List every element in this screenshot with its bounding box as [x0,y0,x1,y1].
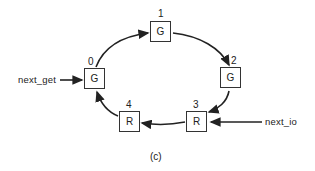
node-0-state: G [91,73,99,84]
edge-1-2 [173,33,229,65]
next-io-label: next_io [265,117,297,127]
node-1-index: 1 [158,9,164,19]
node-0-box: G [84,68,105,89]
next-get-label: next_get [18,75,56,85]
node-2-box: G [220,67,241,88]
node-3-state: R [193,116,200,127]
node-2-index: 2 [231,56,237,66]
edge-2-3 [209,91,229,112]
node-1-state: G [157,26,165,37]
node-2-state: G [227,72,235,83]
figure-caption: (c) [150,152,162,162]
node-3-index: 3 [193,100,199,110]
edge-0-1 [96,33,148,67]
node-4-index: 4 [126,100,132,110]
edge-3-4 [142,122,185,124]
node-0-index: 0 [88,57,94,67]
node-3-box: R [186,111,207,132]
edge-4-0 [97,92,118,116]
node-4-box: R [119,111,140,132]
node-1-box: G [150,21,171,42]
node-4-state: R [126,116,133,127]
